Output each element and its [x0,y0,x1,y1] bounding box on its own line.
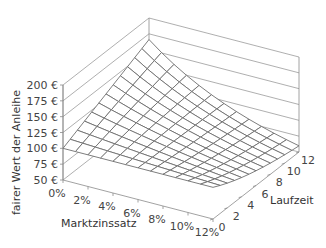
z-tick-label: 200 € [27,79,59,92]
x-tick-label: 4% [98,200,115,213]
y-tick [210,219,213,220]
y-tick-label: 10 [287,165,301,178]
z-tick-label: 75 € [34,158,59,171]
y-tick-label: 0 [219,221,226,234]
z-tick-label: 125 € [27,127,59,140]
surface-mesh [63,40,299,188]
x-tick-label: 10% [170,220,194,233]
y-tick-label: 4 [247,199,254,212]
z-tick-label: 100 € [27,142,59,155]
z-tick-label: 175 € [27,95,59,108]
x-tick-label: 12% [195,226,219,239]
x-axis-title: Marktzinssatz [61,217,137,230]
y-tick-label: 8 [276,176,283,189]
bond-value-surface-chart: 50 €75 €100 €125 €150 €175 €200 €0%2%4%6… [0,0,326,248]
x-tick-label: 8% [148,213,165,226]
x-tick-label: 2% [73,194,90,207]
y-axis-title: Laufzeit [270,194,314,207]
z-tick-label: 50 € [34,174,59,187]
z-axis-title: fairer Wert der Anleihe [10,90,23,215]
y-tick-label: 2 [233,210,240,223]
x-tick-label: 0% [48,187,65,200]
y-tick-label: 6 [262,188,269,201]
z-tick-label: 150 € [27,111,59,124]
y-tick-label: 12 [301,154,315,167]
